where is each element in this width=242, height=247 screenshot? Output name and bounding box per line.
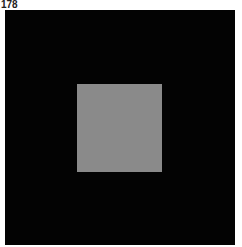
gray-square	[77, 84, 162, 172]
black-background-panel	[5, 10, 235, 245]
figure-number-label: 178	[1, 0, 18, 10]
